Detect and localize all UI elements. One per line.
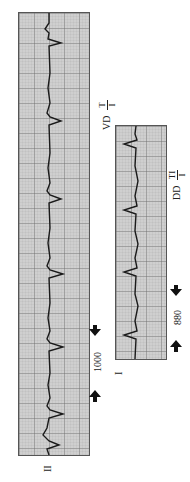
ecg-strip-lead-i xyxy=(115,125,167,360)
annotation-dd-denominator: I xyxy=(178,174,187,177)
ecg-strip-lead-ii xyxy=(18,12,90,456)
annotation-dd-fraction: TI I xyxy=(168,170,187,180)
lead-i-label: I xyxy=(113,372,124,375)
annotation-dd: DD TI I xyxy=(168,170,187,200)
ecg-trace-lead-i xyxy=(116,126,166,359)
interval-1000-label: 1000 xyxy=(92,352,103,372)
annotation-vd-numerator: T xyxy=(98,102,107,108)
annotation-dd-numerator: TI xyxy=(168,171,177,180)
annotation-vd-prefix: VD xyxy=(101,116,112,130)
interval-880-label: 880 xyxy=(172,310,183,325)
annotation-vd-denominator: I xyxy=(108,104,117,107)
lead-ii-label: II xyxy=(42,465,53,472)
arrow-down-icon xyxy=(169,285,183,297)
arrow-up-icon xyxy=(88,390,102,402)
annotation-vd-fraction: T I xyxy=(98,100,117,110)
annotation-vd: VD T I xyxy=(98,100,117,130)
ecg-trace-lead-ii xyxy=(19,13,89,455)
arrow-up-icon xyxy=(169,340,183,352)
annotation-dd-prefix: DD xyxy=(171,186,182,200)
arrow-down-icon xyxy=(88,325,102,337)
